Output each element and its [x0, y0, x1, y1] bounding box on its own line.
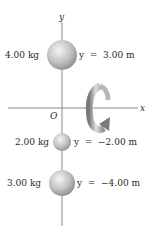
mass-label-3kg: 3.00 kg — [7, 178, 41, 188]
position-label-4kg: y = 3.00 m — [78, 50, 135, 60]
mass-label-4kg: 4.00 kg — [5, 50, 39, 60]
mass-label-2kg: 2.00 kg — [15, 137, 49, 147]
position-label-3kg: y = −4.00 m — [76, 178, 141, 188]
diagram-canvas: y x O 4.00 kg y = 3.00 m 2.00 kg y = −2.… — [0, 0, 152, 233]
position-label-2kg: y = −2.00 m — [73, 137, 138, 147]
sphere-4kg — [47, 40, 77, 70]
origin-label: O — [50, 111, 58, 121]
y-axis-label: y — [58, 12, 65, 22]
sphere-2kg — [53, 133, 71, 151]
sphere-3kg — [49, 170, 75, 196]
x-axis-label: x — [140, 103, 145, 113]
